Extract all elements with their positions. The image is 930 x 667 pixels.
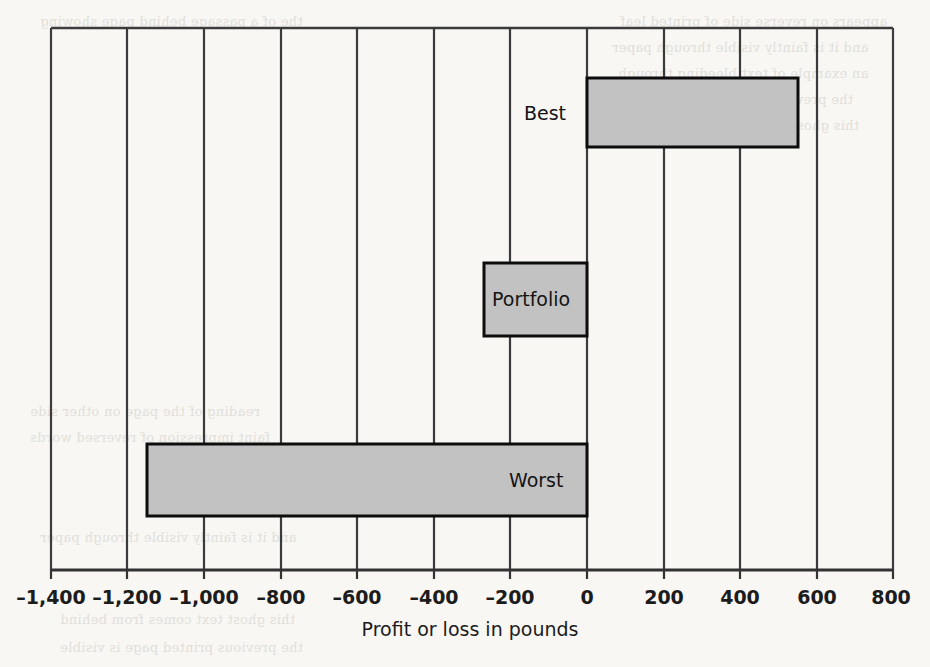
x-tick-label: 0 xyxy=(580,586,593,608)
bar-best xyxy=(587,78,798,147)
bar-label-worst: Worst xyxy=(509,469,563,491)
x-tick-label: –400 xyxy=(409,586,458,608)
x-tick-label: –600 xyxy=(332,586,381,608)
x-tick-label: –200 xyxy=(485,586,534,608)
x-tick-label: –1,200 xyxy=(92,586,162,608)
x-tick-label: 400 xyxy=(720,586,760,608)
bar-label-best: Best xyxy=(524,102,566,124)
x-tick-label: 800 xyxy=(871,586,911,608)
bar-chart xyxy=(0,0,930,667)
x-tick-label: –1,000 xyxy=(169,586,239,608)
x-tick-label: 600 xyxy=(797,586,837,608)
bar-label-portfolio: Portfolio xyxy=(492,288,570,310)
x-tick-label: 200 xyxy=(644,586,684,608)
x-tick-label: –1,400 xyxy=(16,586,86,608)
chart-page: the of a passage behind page showing app… xyxy=(0,0,930,667)
x-tick-label: –800 xyxy=(256,586,305,608)
x-axis-title: Profit or loss in pounds xyxy=(362,618,579,640)
